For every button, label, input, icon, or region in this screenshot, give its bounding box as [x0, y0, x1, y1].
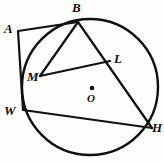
vertex-label-A: A [4, 22, 13, 35]
center-point-O [90, 86, 95, 91]
segment-A-W [18, 31, 23, 110]
segment-W-H [23, 110, 152, 128]
vertex-label-W: W [4, 104, 16, 117]
segment-A-B [18, 22, 78, 31]
segment-B-H [78, 22, 152, 128]
segment-B-M [40, 22, 78, 76]
center-label-O: O [87, 93, 95, 104]
geometry-canvas [0, 0, 164, 162]
vertex-label-M: M [27, 70, 39, 83]
vertex-label-L: L [114, 52, 122, 65]
segment-M-L [40, 61, 110, 76]
geometry-diagram: A B L M W H O [0, 0, 164, 162]
vertex-label-H: H [152, 121, 162, 134]
vertex-label-B: B [72, 1, 81, 14]
